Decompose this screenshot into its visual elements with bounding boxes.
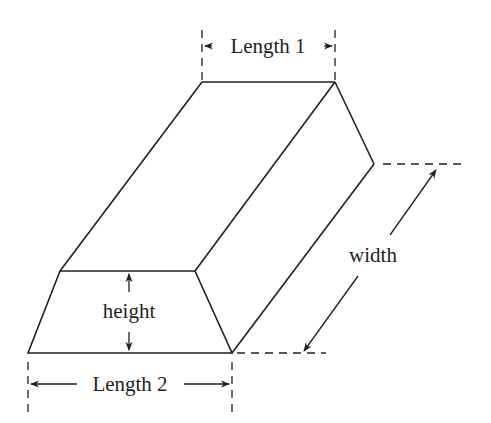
height-label: height [103, 299, 156, 323]
width-dimension: width [237, 164, 466, 353]
length1-dimension: Length 1 [202, 30, 335, 80]
prism-diagram: Length 1 height Length 2 width [0, 0, 491, 423]
length2-dimension: Length 2 [28, 362, 232, 412]
width-label: width [349, 243, 397, 267]
prism-shape [28, 82, 374, 353]
diagram-canvas: Length 1 height Length 2 width [0, 0, 491, 423]
receding-edge-left [60, 82, 202, 271]
length2-label: Length 2 [92, 372, 167, 396]
height-dimension: height [103, 274, 156, 350]
back-slant-edge [335, 82, 374, 164]
length1-label: Length 1 [230, 34, 305, 58]
